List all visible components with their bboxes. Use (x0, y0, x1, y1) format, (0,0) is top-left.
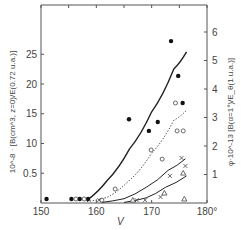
filled-circle-point (169, 39, 173, 43)
x-tick-label: 180° (197, 206, 218, 217)
right-tick-label: 6 (212, 27, 218, 38)
x-tick-label: 170 (143, 206, 160, 217)
right-tick-label: 2 (212, 141, 218, 152)
cross-point (168, 174, 172, 178)
x-tick-label: 150 (33, 206, 50, 217)
chart: 150160170180° 0.510152025 123456 V 10^-8… (0, 0, 241, 230)
open-circle-point (175, 129, 179, 133)
cross-point (143, 198, 147, 202)
filled-circle-point (44, 197, 48, 201)
fit-curves (87, 52, 187, 202)
data-points (44, 39, 187, 202)
filled-circle-point (127, 117, 131, 121)
triangle-point (182, 196, 187, 201)
right-tick-label: 5 (212, 55, 218, 66)
right-tick-label: 1 (212, 169, 218, 180)
filled-circle-point (156, 120, 160, 124)
x-axis-label: V (117, 216, 125, 227)
open-circle-point (181, 129, 185, 133)
open-circle-point (74, 197, 78, 201)
left-y-axis-label: 10^-8 · [B(cm^3, z=0)/E(0.72 u.a.)] (8, 51, 17, 173)
open-circle-point (82, 197, 86, 201)
left-tick-label: 0.5 (23, 168, 37, 179)
open-circle-point (173, 101, 177, 105)
x-tick-label: 160 (88, 206, 105, 217)
right-tick-label: 3 (212, 112, 218, 123)
cross-point (159, 195, 163, 199)
open-circle-point (160, 157, 164, 161)
filled-circle-point (180, 101, 184, 105)
right-y-axis-ticks: 123456 (204, 27, 218, 181)
left-tick-label: 10 (26, 138, 38, 149)
left-tick-label: 20 (26, 79, 38, 90)
fit-curve (87, 110, 187, 201)
filled-circle-point (176, 74, 180, 78)
filled-circle-point (69, 197, 73, 201)
left-tick-label: 25 (26, 49, 38, 60)
cross-point (180, 156, 184, 160)
cross-point (183, 164, 187, 168)
open-circle-point (113, 187, 117, 191)
right-tick-label: 4 (212, 84, 218, 95)
triangle-point (181, 170, 186, 175)
open-circle-point (149, 148, 153, 152)
left-tick-label: 15 (26, 108, 38, 119)
right-y-axis-label: φ·10^-13 [B(α=1°)/E_θ(1 u.a.)] (226, 58, 235, 166)
filled-circle-point (147, 129, 151, 133)
triangle-point (162, 190, 167, 195)
